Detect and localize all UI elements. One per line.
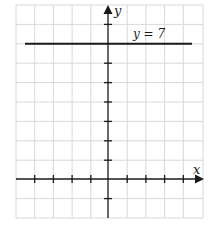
- x-axis: [16, 175, 196, 183]
- grid: [16, 5, 203, 218]
- coordinate-plane: y x y = 7: [0, 0, 213, 233]
- line-label: y = 7: [132, 27, 165, 41]
- x-axis-label: x: [193, 162, 201, 177]
- y-axis-arrow-icon: [104, 5, 113, 14]
- y-axis-label: y: [113, 3, 122, 18]
